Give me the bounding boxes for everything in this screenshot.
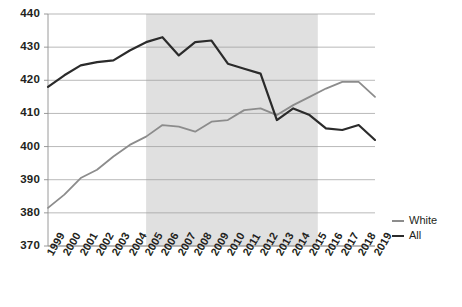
line-chart: 440430420410400390380370 199920002001200… <box>0 0 462 307</box>
legend-label-all: All <box>409 230 421 241</box>
y-tick-440: 440 <box>6 8 40 20</box>
legend-item-all[interactable]: All <box>392 229 437 242</box>
y-tick-430: 430 <box>6 41 40 53</box>
y-tick-370: 370 <box>6 240 40 252</box>
legend-label-white: White <box>409 215 437 226</box>
y-tick-410: 410 <box>6 107 40 119</box>
chart-legend: White All <box>392 214 437 244</box>
y-tick-400: 400 <box>6 141 40 153</box>
legend-swatch-white <box>392 220 404 222</box>
y-tick-390: 390 <box>6 174 40 186</box>
legend-swatch-all <box>392 235 404 237</box>
legend-item-white[interactable]: White <box>392 214 437 227</box>
chart-plot-area <box>0 0 462 307</box>
y-tick-420: 420 <box>6 74 40 86</box>
y-tick-380: 380 <box>6 207 40 219</box>
